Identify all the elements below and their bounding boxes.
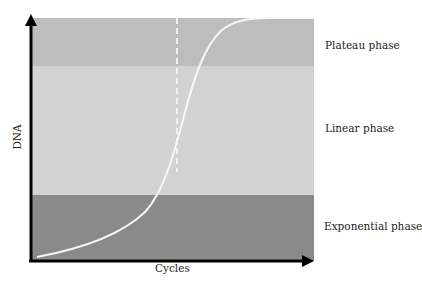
plateau-band bbox=[31, 18, 314, 66]
x-axis-label: Cycles bbox=[155, 262, 190, 274]
y-axis-label: DNA bbox=[11, 122, 23, 152]
linear-band bbox=[31, 66, 314, 195]
linear-phase-label: Linear phase bbox=[325, 122, 394, 134]
exponential-phase-label: Exponential phase bbox=[324, 220, 422, 232]
plateau-phase-label: Plateau phase bbox=[325, 39, 400, 51]
exponential-band bbox=[31, 195, 314, 261]
